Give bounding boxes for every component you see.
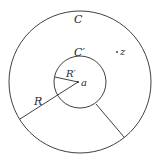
annulus-diagram: C C′ R′ a z R xyxy=(0,0,159,163)
cut-line xyxy=(96,104,124,137)
center-point xyxy=(77,81,79,83)
label-C-prime: C′ xyxy=(74,46,85,59)
label-R-prime: R′ xyxy=(65,68,77,79)
label-C: C xyxy=(74,13,83,26)
radius-R-line xyxy=(20,82,78,119)
label-R: R xyxy=(33,95,42,108)
label-z: z xyxy=(119,46,126,57)
inner-circle-C-prime xyxy=(54,56,106,108)
point-z xyxy=(116,51,118,53)
outer-circle-C xyxy=(9,11,151,153)
label-a: a xyxy=(81,77,87,88)
